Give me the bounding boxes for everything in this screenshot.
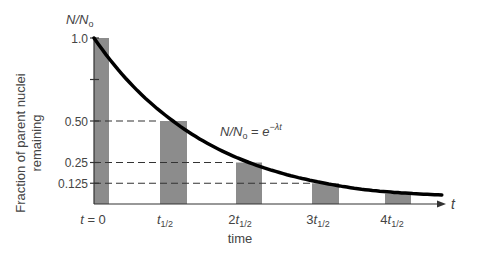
x-tick-label: t = 0 xyxy=(80,212,106,227)
x-axis-title: time xyxy=(228,231,253,246)
x-tick-label: t1/2 xyxy=(157,212,173,229)
x-tick-label: 4t1/2 xyxy=(380,212,403,229)
y-tick-label: 0.125 xyxy=(58,177,88,191)
bar-4 xyxy=(385,194,411,204)
y-axis-title-line: Fraction of parent nuclei xyxy=(13,73,28,213)
y-axis-title-line: remaining xyxy=(29,114,44,171)
y-tick-label: 0.25 xyxy=(65,156,89,170)
y-axis-symbol: N/No xyxy=(66,12,93,29)
y-tick-label: 1.0 xyxy=(71,32,88,46)
x-tick-label: 3t1/2 xyxy=(306,212,329,229)
x-tick-label: 2t1/2 xyxy=(228,212,251,229)
y-axis-title: Fraction of parent nucleiremaining xyxy=(13,73,44,213)
y-tick-label: 0.50 xyxy=(65,115,89,129)
equation-annotation: N/No = e−λt xyxy=(220,122,282,141)
x-axis-arrow-icon xyxy=(437,201,446,208)
decay-curve xyxy=(94,38,442,195)
x-axis-symbol: t xyxy=(451,196,456,212)
decay-chart: 1.00.500.250.125t = 0t1/22t1/23t1/24t1/2… xyxy=(0,0,477,253)
